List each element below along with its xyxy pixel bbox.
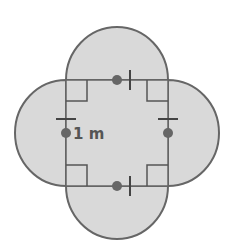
left-semicircle xyxy=(15,80,66,186)
bottom-semicircle xyxy=(66,186,168,239)
side-length-label: 1 m xyxy=(73,125,104,143)
top-semicircle xyxy=(66,27,168,80)
right-semicircle xyxy=(168,80,219,186)
quatrefoil-diagram: 1 m xyxy=(0,0,234,252)
